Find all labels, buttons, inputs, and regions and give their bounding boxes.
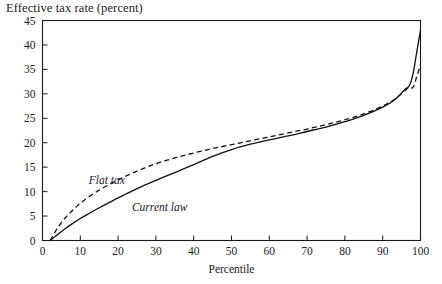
series-annotation-flat-tax: Flat tax (88, 174, 126, 186)
series-annotation-current-law: Current law (132, 201, 188, 213)
x-axis-tick-label: 100 (412, 245, 430, 257)
x-axis-tick-label: 50 (226, 245, 238, 257)
x-axis-tick-label: 90 (377, 245, 389, 257)
y-axis-tick-label: 40 (24, 39, 36, 51)
chart-container: Effective tax rate (percent) 05101520253… (0, 0, 442, 284)
y-axis-tick-label: 20 (24, 137, 36, 149)
x-axis-title: Percentile (209, 263, 255, 275)
y-axis-tick-label: 45 (24, 15, 36, 27)
y-axis-tick-label: 15 (24, 161, 36, 173)
chart-plot-area: 0510152025303540450102030405060708090100… (0, 0, 442, 284)
y-axis-tick-label: 25 (24, 112, 36, 124)
series-line-flat-tax (50, 65, 420, 241)
x-axis-tick-label: 40 (188, 245, 200, 257)
y-axis-tick-label: 10 (24, 186, 36, 198)
y-axis-tick-label: 0 (30, 235, 36, 247)
x-axis-tick-label: 60 (264, 245, 276, 257)
y-axis-tick-label: 30 (24, 88, 36, 100)
series-line-current-law (50, 30, 420, 240)
x-axis-tick-label: 80 (339, 245, 351, 257)
x-axis-tick-label: 70 (301, 245, 313, 257)
y-axis-tick-label: 5 (30, 210, 36, 222)
x-axis-tick-label: 0 (40, 245, 46, 257)
x-axis-tick-label: 10 (75, 245, 87, 257)
x-axis-tick-label: 30 (150, 245, 162, 257)
y-axis-tick-label: 35 (24, 63, 36, 75)
x-axis-tick-label: 20 (112, 245, 124, 257)
